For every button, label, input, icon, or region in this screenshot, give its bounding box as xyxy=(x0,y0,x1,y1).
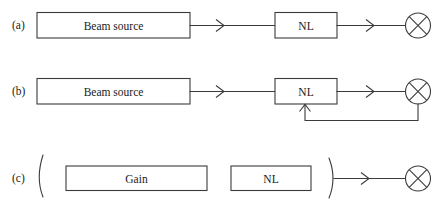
row-a-label: (a) xyxy=(12,19,25,32)
row-a-nl-label: NL xyxy=(298,20,313,32)
row-c-gain-box: Gain xyxy=(66,166,207,191)
row-c-arc-right-icon xyxy=(329,158,333,198)
row-b: (b) Beam source NL xyxy=(12,79,431,121)
optics-block-diagram: (a) Beam source NL xyxy=(0,0,440,203)
row-c-nl-box: NL xyxy=(231,166,311,191)
row-c-nl-label: NL xyxy=(263,173,278,185)
row-b-nl-box: NL xyxy=(275,79,337,105)
row-b-beam-source-label: Beam source xyxy=(84,86,144,98)
row-c-arc-left-icon xyxy=(39,155,43,197)
row-a-beam-source-box: Beam source xyxy=(37,13,190,39)
row-b-detector xyxy=(406,79,431,104)
row-b-nl-label: NL xyxy=(298,86,313,98)
figure-root: (a) Beam source NL xyxy=(0,0,440,203)
row-c-gain-label: Gain xyxy=(125,173,148,185)
row-b-feedback-path xyxy=(305,104,418,121)
row-a-nl-box: NL xyxy=(275,13,337,39)
row-c-detector xyxy=(406,166,431,191)
row-a: (a) Beam source NL xyxy=(12,13,431,39)
row-c: (c) Gain NL xyxy=(12,155,431,198)
row-a-detector xyxy=(406,13,431,38)
row-b-label: (b) xyxy=(12,85,26,98)
row-c-label: (c) xyxy=(12,172,25,185)
row-a-beam-source-label: Beam source xyxy=(84,20,144,32)
row-b-beam-source-box: Beam source xyxy=(37,79,190,105)
